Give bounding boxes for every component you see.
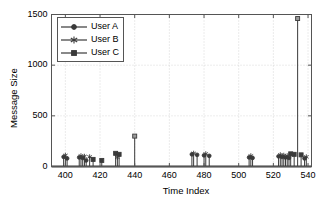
x-tick-label: 460 <box>155 171 183 180</box>
legend-item-user-c: User C <box>60 46 119 59</box>
chart-legend: User A User B User C <box>57 17 124 62</box>
x-axis-label: Time Index <box>24 185 324 196</box>
legend-item-user-b: User B <box>60 33 119 46</box>
series-user-a <box>62 152 307 166</box>
legend-item-user-a: User A <box>60 20 119 33</box>
legend-label-user-c: User C <box>88 48 119 57</box>
legend-marker-circle-icon <box>60 21 88 33</box>
x-tick-label: 400 <box>51 171 79 180</box>
y-tick-label: 1000 <box>27 60 47 69</box>
x-tick-label: 540 <box>294 171 322 180</box>
legend-label-user-b: User B <box>88 35 119 44</box>
y-tick-label: 500 <box>32 111 47 120</box>
y-axis-label: Message Size <box>8 68 19 128</box>
legend-marker-square-icon <box>60 47 88 59</box>
chart-figure: Message Size Time Index User A User B <box>0 0 324 204</box>
x-tick-label: 480 <box>190 171 218 180</box>
legend-marker-star-icon <box>60 34 88 46</box>
x-tick-label: 420 <box>86 171 114 180</box>
y-tick-label: 0 <box>42 162 47 171</box>
y-tick-label: 1500 <box>27 10 47 19</box>
x-tick-label: 520 <box>259 171 287 180</box>
legend-label-user-a: User A <box>88 22 118 31</box>
x-tick-label: 500 <box>225 171 253 180</box>
x-tick-label: 440 <box>121 171 149 180</box>
